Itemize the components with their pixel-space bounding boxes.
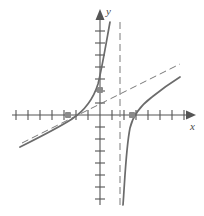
curve-left-branch [20,22,110,147]
x-axis-label: x [190,120,195,132]
y-axis-label: y [106,5,111,17]
slant-asymptote-line [22,64,180,143]
curve-right-branch [123,77,180,205]
x-axis-arrowhead [186,111,196,120]
point-on-x-axis-left [65,112,71,118]
coordinate-plot [0,0,204,216]
point-on-y-axis [97,87,103,93]
graph-figure: y x [0,0,204,216]
y-axis-arrowhead [96,9,105,20]
point-on-x-axis-right [129,112,135,118]
axes [12,9,196,205]
